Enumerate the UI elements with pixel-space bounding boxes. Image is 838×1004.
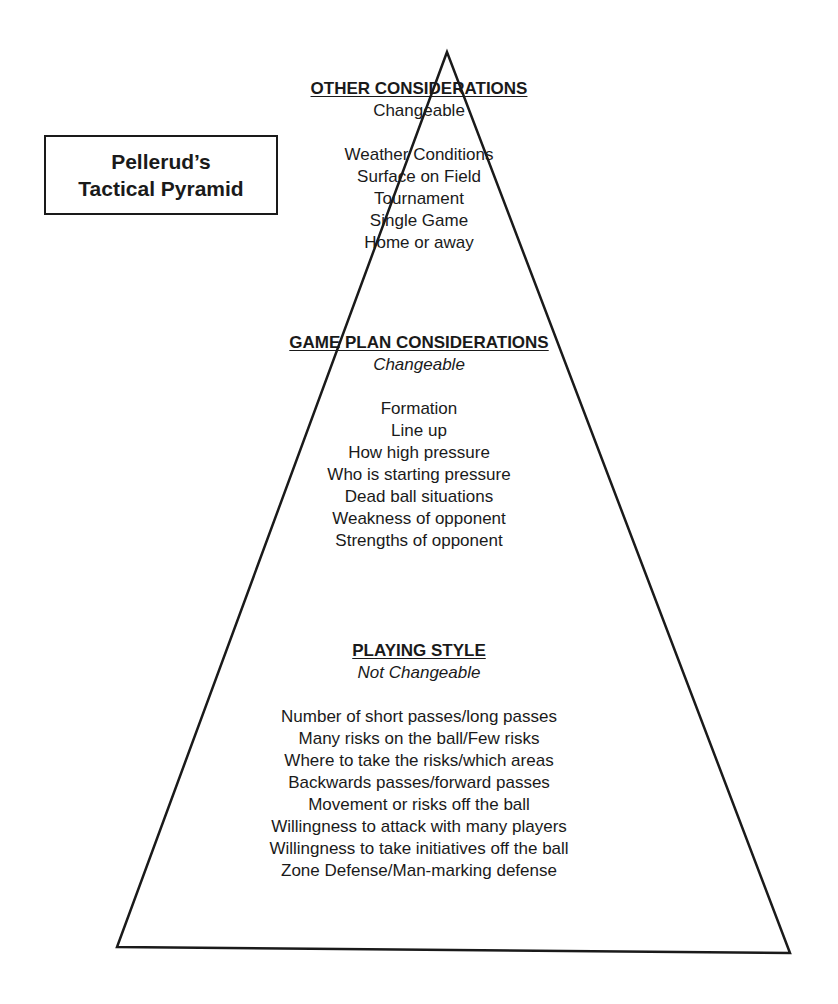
- list-item: Where to take the risks/which areas: [0, 750, 838, 772]
- item-list: Formation Line up How high pressure Who …: [0, 398, 838, 552]
- list-item: Dead ball situations: [0, 486, 838, 508]
- list-item: Surface on Field: [0, 166, 838, 188]
- section-playing-style: PLAYING STYLE Not Changeable Number of s…: [0, 640, 838, 882]
- list-item: How high pressure: [0, 442, 838, 464]
- list-item: Zone Defense/Man-marking defense: [0, 860, 838, 882]
- list-item: Backwards passes/forward passes: [0, 772, 838, 794]
- list-item: Single Game: [0, 210, 838, 232]
- section-subtitle: Changeable: [0, 354, 838, 376]
- list-item: Many risks on the ball/Few risks: [0, 728, 838, 750]
- list-item: Strengths of opponent: [0, 530, 838, 552]
- list-item: Number of short passes/long passes: [0, 706, 838, 728]
- section-subtitle: Changeable: [0, 100, 838, 122]
- section-game-plan-considerations: GAME PLAN CONSIDERATIONS Changeable Form…: [0, 332, 838, 552]
- section-heading: PLAYING STYLE: [0, 640, 838, 662]
- section-heading: OTHER CONSIDERATIONS: [0, 78, 838, 100]
- list-item: Formation: [0, 398, 838, 420]
- list-item: Who is starting pressure: [0, 464, 838, 486]
- list-item: Tournament: [0, 188, 838, 210]
- list-item: Movement or risks off the ball: [0, 794, 838, 816]
- list-item: Weakness of opponent: [0, 508, 838, 530]
- section-subtitle: Not Changeable: [0, 662, 838, 684]
- list-item: Weather Conditions: [0, 144, 838, 166]
- section-heading: GAME PLAN CONSIDERATIONS: [0, 332, 838, 354]
- list-item: Line up: [0, 420, 838, 442]
- list-item: Home or away: [0, 232, 838, 254]
- item-list: Number of short passes/long passes Many …: [0, 706, 838, 882]
- list-item: Willingness to take initiatives off the …: [0, 838, 838, 860]
- item-list: Weather Conditions Surface on Field Tour…: [0, 144, 838, 254]
- section-other-considerations: OTHER CONSIDERATIONS Changeable Weather …: [0, 78, 838, 254]
- list-item: Willingness to attack with many players: [0, 816, 838, 838]
